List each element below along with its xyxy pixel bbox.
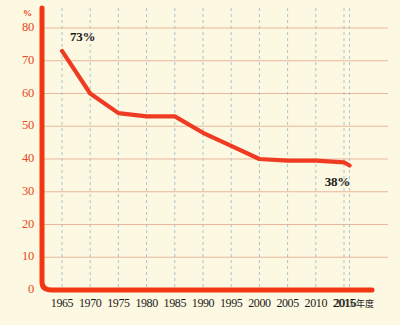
y-axis-tick-label: 0 bbox=[6, 282, 34, 297]
x-axis-tick-label: 1970 bbox=[75, 296, 105, 311]
horizontal-gridlines bbox=[42, 28, 388, 257]
x-axis-tick-label: 1965 bbox=[47, 296, 77, 311]
x-axis-tick-label: 1990 bbox=[188, 296, 218, 311]
y-axis-unit-label: % bbox=[23, 8, 32, 18]
chart-container: 80706050403020100 1965197019751980198519… bbox=[0, 0, 400, 325]
x-axis-tick-label: 1980 bbox=[132, 296, 162, 311]
y-axis-tick-label: 50 bbox=[6, 118, 34, 133]
data-point-annotation: 38% bbox=[325, 174, 350, 190]
x-axis-tick-label-last: 2016年度 bbox=[334, 296, 374, 311]
x-axis-unit-label: 年度 bbox=[356, 299, 373, 309]
chart-axes bbox=[42, 8, 372, 290]
y-axis-tick-label: 60 bbox=[6, 86, 34, 101]
y-axis-tick-label: 10 bbox=[6, 249, 34, 264]
x-axis-tick-label: 2005 bbox=[273, 296, 303, 311]
chart-plot-area bbox=[0, 0, 400, 325]
chart-svg bbox=[0, 0, 400, 325]
x-axis-tick-label: 1995 bbox=[216, 296, 246, 311]
y-axis-tick-label: 20 bbox=[6, 217, 34, 232]
data-point-annotation: 73% bbox=[70, 29, 95, 45]
x-axis-tick-label: 1975 bbox=[103, 296, 133, 311]
series-line bbox=[62, 51, 350, 166]
vertical-gridlines bbox=[62, 8, 350, 290]
x-axis-last-tick-number: 2016 bbox=[334, 296, 356, 310]
y-axis-tick-label: 30 bbox=[6, 184, 34, 199]
axis-lines bbox=[42, 8, 372, 290]
y-axis-tick-label: 80 bbox=[6, 20, 34, 35]
data-series-line bbox=[62, 51, 350, 166]
y-axis-tick-label: 40 bbox=[6, 151, 34, 166]
x-axis-tick-label: 1985 bbox=[160, 296, 190, 311]
x-axis-tick-label: 2010 bbox=[301, 296, 331, 311]
x-axis-tick-label: 2000 bbox=[244, 296, 274, 311]
y-axis-tick-label: 70 bbox=[6, 53, 34, 68]
